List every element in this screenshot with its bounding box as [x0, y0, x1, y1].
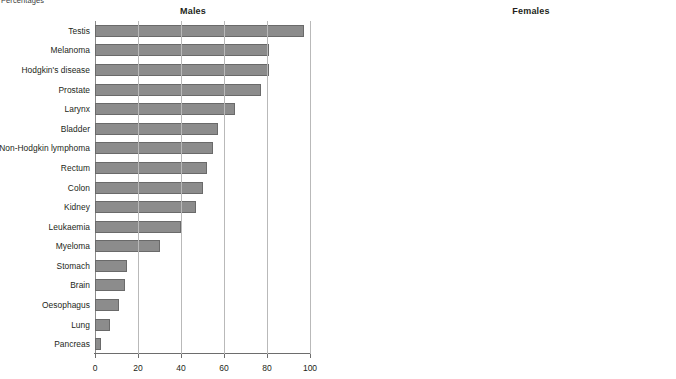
plot-area-males: TestisMelanomaHodgkin's diseaseProstateL…	[95, 21, 310, 354]
gridline-20	[138, 21, 139, 354]
x-tick-60	[224, 354, 225, 358]
x-tick-100	[310, 354, 311, 358]
x-tick-0	[95, 354, 96, 358]
category-label: Stomach	[57, 261, 90, 271]
category-label: Testis	[68, 26, 90, 36]
x-tick-40	[181, 354, 182, 358]
bar-row[interactable]: Oesophagus	[95, 299, 310, 311]
bar[interactable]	[95, 142, 213, 154]
x-tick-label-80: 80	[262, 363, 271, 373]
bar-row[interactable]: Prostate	[95, 84, 310, 96]
category-label: Non-Hodgkin lymphoma	[0, 143, 90, 153]
bar-row[interactable]: Colon	[95, 182, 310, 194]
bar[interactable]	[95, 103, 235, 115]
bar-row[interactable]: Larynx	[95, 103, 310, 115]
bar[interactable]	[95, 84, 261, 96]
bar-rows-males: TestisMelanomaHodgkin's diseaseProstateL…	[95, 21, 310, 354]
category-label: Pancreas	[54, 339, 90, 349]
panel-title-males: Males	[0, 6, 338, 16]
x-tick-20	[138, 354, 139, 358]
bar-row[interactable]: Leukaemia	[95, 221, 310, 233]
bar-row[interactable]: Lung	[95, 319, 310, 331]
bar-row[interactable]: Hodgkin's disease	[95, 64, 310, 76]
bar[interactable]	[95, 338, 101, 350]
category-label: Oesophagus	[42, 300, 90, 310]
category-label: Kidney	[64, 202, 90, 212]
bar-row[interactable]: Non-Hodgkin lymphoma	[95, 142, 310, 154]
category-label: Melanoma	[50, 45, 90, 55]
bar-row[interactable]: Pancreas	[95, 338, 310, 350]
bar[interactable]	[95, 299, 119, 311]
x-tick-label-40: 40	[176, 363, 185, 373]
category-label: Myeloma	[56, 241, 90, 251]
bar[interactable]	[95, 240, 160, 252]
x-tick-80	[267, 354, 268, 358]
gridline-60	[224, 21, 225, 354]
bar-row[interactable]: Testis	[95, 25, 310, 37]
x-tick-label-60: 60	[219, 363, 228, 373]
bar[interactable]	[95, 162, 207, 174]
x-tick-label-0: 0	[93, 363, 98, 373]
gridline-40	[181, 21, 182, 354]
panel-title-females: Females	[340, 6, 676, 16]
category-label: Rectum	[61, 163, 90, 173]
bar-row[interactable]: Brain	[95, 279, 310, 291]
bar[interactable]	[95, 260, 127, 272]
bar[interactable]	[95, 44, 269, 56]
bar[interactable]	[95, 182, 203, 194]
bar[interactable]	[95, 123, 218, 135]
category-label: Leukaemia	[49, 222, 90, 232]
category-label: Hodgkin's disease	[21, 65, 90, 75]
bar-row[interactable]: Kidney	[95, 201, 310, 213]
gridline-100	[310, 21, 311, 354]
gridline-80	[267, 21, 268, 354]
category-label: Prostate	[58, 85, 90, 95]
chart-panel-females: Females MelanomaBreastHodgkin's diseaseU…	[340, 0, 676, 379]
bar-row[interactable]: Stomach	[95, 260, 310, 272]
category-label: Lung	[71, 320, 90, 330]
bar[interactable]	[95, 279, 125, 291]
category-label: Bladder	[61, 124, 90, 134]
category-label: Brain	[70, 280, 90, 290]
bar-row[interactable]: Rectum	[95, 162, 310, 174]
category-label: Colon	[68, 183, 90, 193]
x-tick-label-100: 100	[303, 363, 317, 373]
bar-row[interactable]: Melanoma	[95, 44, 310, 56]
bar-row[interactable]: Myeloma	[95, 240, 310, 252]
x-tick-label-20: 20	[133, 363, 142, 373]
category-label: Larynx	[65, 104, 90, 114]
figure-container: Percentages Males TestisMelanomaHodgkin'…	[0, 0, 676, 379]
bar-row[interactable]: Bladder	[95, 123, 310, 135]
bar[interactable]	[95, 319, 110, 331]
chart-panel-males: Males TestisMelanomaHodgkin's diseasePro…	[0, 0, 338, 379]
bar[interactable]	[95, 25, 304, 37]
bar[interactable]	[95, 64, 269, 76]
